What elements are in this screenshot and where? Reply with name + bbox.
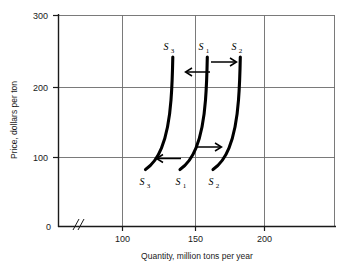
label-bottom-s2-letter: S [209,176,214,187]
label-top-s3-letter: S [164,41,169,52]
label-top-s3-subscript: 3 [171,47,175,55]
label-top-s2-subscript: 2 [239,47,243,55]
y-tick-label-0: 0 [46,222,51,232]
x-axis-title: Quantity, million tons per year [141,251,253,261]
y-axis-title: Price, dollars per ton [9,81,19,159]
label-bottom-s2-subscript: 2 [216,182,220,190]
x-tick-label-200: 200 [257,234,272,244]
label-top-s2-letter: S [232,41,237,52]
supply-curve-chart: 300 200 100 0 100 150 200 Quantity, mill… [0,0,347,267]
chart-svg: 300 200 100 0 100 150 200 Quantity, mill… [0,0,347,267]
x-tick-label-150: 150 [188,234,203,244]
label-bottom-s1-subscript: 1 [183,182,187,190]
label-top-s1-subscript: 1 [206,47,210,55]
label-top-s1-letter: S [199,41,204,52]
label-bottom-s1-letter: S [176,176,181,187]
y-tick-label-200: 200 [33,83,48,93]
x-tick-label-100: 100 [115,234,130,244]
label-bottom-s3-letter: S [140,176,145,187]
y-tick-label-300: 300 [33,11,48,21]
y-tick-label-100: 100 [33,153,48,163]
label-bottom-s3-subscript: 3 [147,182,151,190]
